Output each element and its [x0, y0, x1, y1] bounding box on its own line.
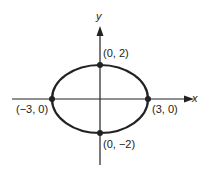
- label-top: (0, 2): [103, 48, 129, 59]
- point-right: [145, 96, 151, 102]
- label-right: (3, 0): [152, 104, 178, 115]
- x-axis-label: x: [192, 93, 198, 104]
- y-axis-arrow-icon: [97, 26, 104, 36]
- label-left: (−3, 0): [16, 104, 48, 115]
- label-bottom: (0, −2): [103, 139, 135, 150]
- y-axis-label: y: [96, 11, 102, 22]
- point-bottom: [97, 130, 103, 136]
- point-top: [97, 62, 103, 68]
- point-left: [49, 96, 55, 102]
